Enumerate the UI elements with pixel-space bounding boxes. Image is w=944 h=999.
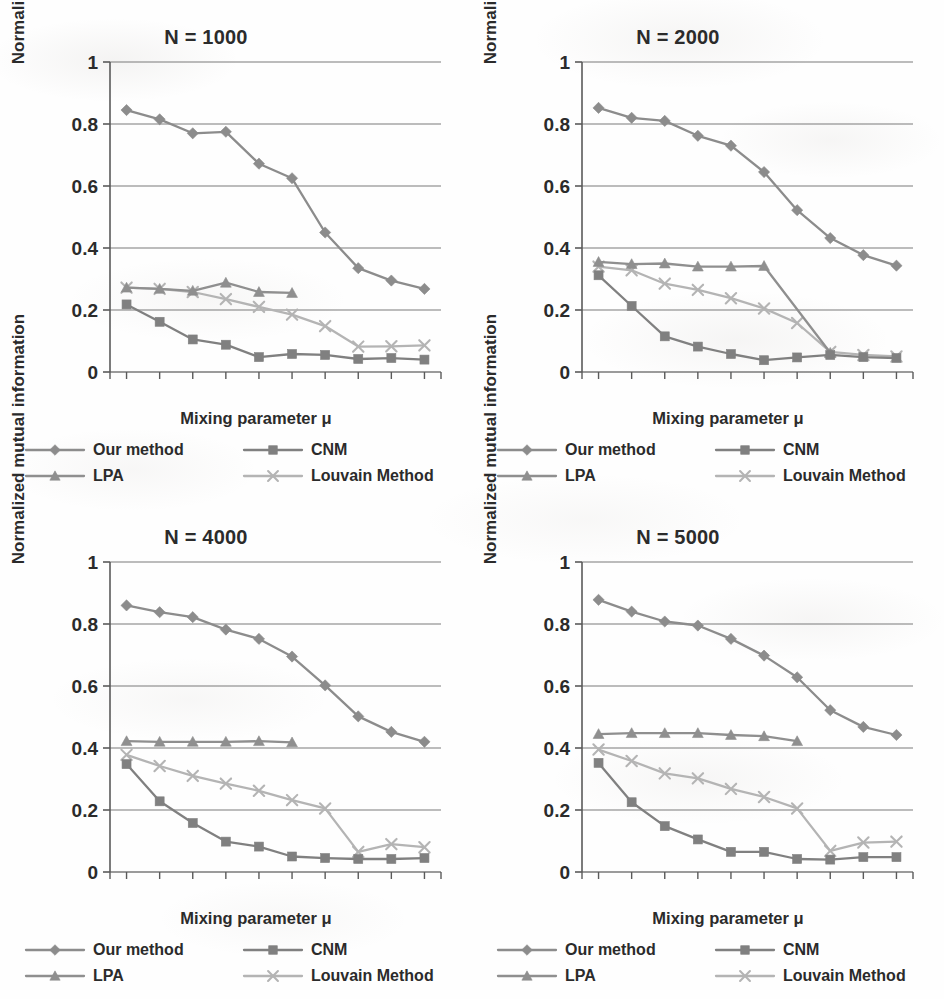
svg-text:0: 0	[559, 362, 570, 383]
legend-item-our-method[interactable]: Our method	[496, 937, 714, 963]
cross-marker-icon	[714, 967, 776, 985]
diamond-marker-icon	[496, 441, 558, 459]
panel-title: N = 2000	[472, 26, 944, 49]
svg-text:0: 0	[87, 362, 98, 383]
diamond-marker-icon	[24, 941, 86, 959]
svg-text:0.6: 0.6	[544, 676, 570, 697]
chart-panel-n5000: N = 5000 Normalized mutual information 0…	[472, 500, 944, 999]
panel-title: N = 1000	[0, 26, 472, 49]
legend-label: CNM	[311, 441, 347, 459]
legend-label: LPA	[565, 967, 596, 985]
svg-text:0.4: 0.4	[544, 238, 571, 259]
x-axis-label: Mixing parameter μ	[472, 409, 944, 428]
legend-item-louvain-method[interactable]: Louvain Method	[714, 963, 928, 989]
x-axis-label: Mixing parameter μ	[0, 409, 472, 428]
triangle-marker-icon	[24, 967, 86, 985]
legend-label: Our method	[565, 941, 656, 959]
square-marker-icon	[242, 441, 304, 459]
triangle-marker-icon	[24, 467, 86, 485]
panel-title: N = 4000	[0, 526, 472, 549]
diamond-marker-icon	[24, 441, 86, 459]
svg-text:0.8: 0.8	[544, 614, 570, 635]
svg-text:0.8: 0.8	[72, 614, 98, 635]
chart-panel-n2000: N = 2000 Normalized mutual information 0…	[472, 0, 944, 500]
svg-text:0.2: 0.2	[72, 300, 98, 321]
legend-item-louvain-method[interactable]: Louvain Method	[242, 463, 456, 489]
legend-item-cnm[interactable]: CNM	[242, 437, 456, 463]
legend-item-louvain-method[interactable]: Louvain Method	[242, 963, 456, 989]
legend: Our method CNM LPA Louvain Method	[496, 437, 928, 489]
y-axis-label: Normalized mutual information	[480, 279, 502, 599]
plot-area: 00.20.40.60.810.10.20.30.40.50.60.70.80.…	[472, 55, 944, 385]
svg-text:0.4: 0.4	[72, 238, 99, 259]
legend-item-our-method[interactable]: Our method	[496, 437, 714, 463]
legend-item-lpa[interactable]: LPA	[24, 463, 242, 489]
svg-text:1: 1	[87, 555, 98, 573]
legend-label: CNM	[783, 441, 819, 459]
triangle-marker-icon	[496, 467, 558, 485]
legend-label: Louvain Method	[783, 467, 906, 485]
legend-label: Our method	[565, 441, 656, 459]
cross-marker-icon	[242, 967, 304, 985]
legend-item-cnm[interactable]: CNM	[714, 437, 928, 463]
svg-text:0: 0	[559, 862, 570, 883]
svg-text:1: 1	[559, 555, 570, 573]
line-chart-svg: 00.20.40.60.810.10.20.30.40.50.60.70.80.…	[0, 55, 472, 385]
legend-label: CNM	[783, 941, 819, 959]
svg-text:0.6: 0.6	[72, 676, 98, 697]
legend-item-louvain-method[interactable]: Louvain Method	[714, 463, 928, 489]
legend-label: Louvain Method	[311, 467, 434, 485]
chart-panel-n4000: N = 4000 Normalized mutual information 0…	[0, 500, 472, 999]
legend: Our method CNM LPA Louvain Method	[24, 437, 456, 489]
legend-item-lpa[interactable]: LPA	[496, 963, 714, 989]
legend-item-lpa[interactable]: LPA	[24, 963, 242, 989]
x-axis-label: Mixing parameter μ	[0, 909, 472, 928]
plot-area: 00.20.40.60.810.10.20.30.40.50.60.70.80.…	[0, 55, 472, 385]
chart-panel-n1000: N = 1000 Normalized mutual information 0…	[0, 0, 472, 500]
svg-text:0.6: 0.6	[72, 176, 98, 197]
legend: Our method CNM LPA Louvain Method	[24, 937, 456, 989]
square-marker-icon	[242, 941, 304, 959]
line-chart-svg: 00.20.40.60.810.10.20.30.40.50.60.70.80.…	[0, 555, 472, 885]
legend-item-cnm[interactable]: CNM	[242, 937, 456, 963]
svg-text:0.2: 0.2	[544, 800, 570, 821]
line-chart-svg: 00.20.40.60.810.10.20.30.40.50.60.70.80.…	[472, 55, 944, 385]
legend-label: LPA	[565, 467, 596, 485]
triangle-marker-icon	[496, 967, 558, 985]
legend-label: LPA	[93, 967, 124, 985]
legend-item-lpa[interactable]: LPA	[496, 463, 714, 489]
svg-text:0.2: 0.2	[72, 800, 98, 821]
legend-label: Our method	[93, 941, 184, 959]
svg-text:0.6: 0.6	[544, 176, 570, 197]
diamond-marker-icon	[496, 941, 558, 959]
square-marker-icon	[714, 941, 776, 959]
svg-text:0.8: 0.8	[544, 114, 570, 135]
svg-text:0.8: 0.8	[72, 114, 98, 135]
legend-label: Louvain Method	[311, 967, 434, 985]
legend-label: LPA	[93, 467, 124, 485]
legend-item-our-method[interactable]: Our method	[24, 437, 242, 463]
figure-panel-grid: N = 1000 Normalized mutual information 0…	[0, 0, 944, 999]
legend-label: Our method	[93, 441, 184, 459]
square-marker-icon	[714, 441, 776, 459]
x-axis-label: Mixing parameter μ	[472, 909, 944, 928]
legend-label: Louvain Method	[783, 967, 906, 985]
legend: Our method CNM LPA Louvain Method	[496, 937, 928, 989]
svg-text:0: 0	[87, 862, 98, 883]
svg-text:0.4: 0.4	[544, 738, 571, 759]
svg-text:1: 1	[559, 55, 570, 73]
line-chart-svg: 00.20.40.60.810.10.20.30.40.50.60.70.80.…	[472, 555, 944, 885]
plot-area: 00.20.40.60.810.10.20.30.40.50.60.70.80.…	[0, 555, 472, 885]
legend-label: CNM	[311, 941, 347, 959]
svg-text:0.4: 0.4	[72, 738, 99, 759]
cross-marker-icon	[714, 467, 776, 485]
svg-text:0.2: 0.2	[544, 300, 570, 321]
panel-title: N = 5000	[472, 526, 944, 549]
legend-item-cnm[interactable]: CNM	[714, 937, 928, 963]
svg-text:1: 1	[87, 55, 98, 73]
y-axis-label: Normalized mutual information	[8, 279, 30, 599]
plot-area: 00.20.40.60.810.10.20.30.40.50.60.70.80.…	[472, 555, 944, 885]
legend-item-our-method[interactable]: Our method	[24, 937, 242, 963]
cross-marker-icon	[242, 467, 304, 485]
